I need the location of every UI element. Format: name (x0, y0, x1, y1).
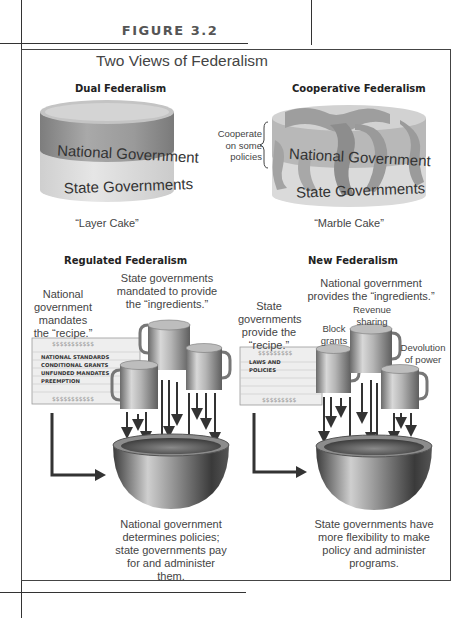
new-result: State governments have more flexibility … (306, 518, 442, 570)
svg-text:PREEMPTION: PREEMPTION (41, 378, 80, 384)
svg-text:$$$$$$$$$$$: $$$$$$$$$$$ (52, 395, 94, 402)
new-recipe-arrow (254, 413, 296, 472)
svg-text:UNFUNDED MANDATES: UNFUNDED MANDATES (41, 370, 109, 376)
svg-text:LAWS AND: LAWS AND (249, 359, 281, 365)
svg-text:POLICIES: POLICIES (249, 367, 276, 373)
regulated-recipe-arrow (52, 413, 95, 475)
new-recipe-note: State governments provide the “recipe.” (238, 300, 300, 352)
new-ingredients-note: National government provides the “ingred… (306, 277, 436, 303)
svg-text:State Governments: State Governments (64, 175, 194, 196)
svg-text:$$$$$$$$$$$: $$$$$$$$$$$ (52, 340, 94, 347)
mug-label-block-grants: Block grants (318, 323, 350, 346)
regulated-recipe-note: National government mandates the “recipe… (28, 288, 98, 340)
mug-label-devolution: Devolution of power (397, 342, 449, 365)
svg-text:NATIONAL STANDARDS: NATIONAL STANDARDS (41, 354, 109, 360)
cooperative-caption: “Marble Cake” (309, 217, 389, 230)
regulated-result: National government determines policies;… (106, 518, 236, 583)
new-bowl (316, 435, 432, 510)
regulated-bowl (113, 434, 229, 509)
new-recipe-card: $$$$$$$$$ $$$$$$$$$ LAWS AND POLICIES (240, 347, 322, 405)
mug-label-revenue-sharing: Revenue sharing (350, 304, 394, 327)
layer-cake: National Government State Governments (40, 100, 200, 202)
dual-caption: “Layer Cake” (67, 217, 147, 230)
svg-text:$$$$$$$$$: $$$$$$$$$ (262, 396, 297, 403)
cooperative-brace-note: Cooperate on some policies (212, 128, 262, 163)
regulated-mugs (112, 320, 230, 409)
svg-text:CONDITIONAL GRANTS: CONDITIONAL GRANTS (41, 362, 109, 368)
marble-cake: National Government State Governments (260, 105, 432, 207)
regulated-ingredients-note: State governments mandated to provide th… (112, 272, 222, 311)
